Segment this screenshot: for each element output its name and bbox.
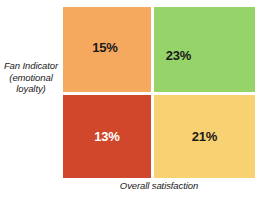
matrix-cell-top-right[interactable]: 23% Fans 28% — [154, 7, 255, 92]
matrix-cell-bottom-right[interactable]: 21% — [154, 95, 255, 178]
matrix-cell-top-right-value: 23% — [166, 48, 191, 63]
matrix-cell-top-left[interactable]: 15% — [63, 7, 151, 92]
matrix-cell-bottom-right-value: 21% — [192, 129, 217, 144]
fan-indicator-matrix-chart: Fan Indicator (emotional loyalty) 15% 23… — [0, 0, 257, 197]
y-axis-label-line-3: loyalty) — [0, 83, 62, 95]
x-axis-label: Overall satisfaction — [63, 180, 255, 192]
matrix-cell-top-left-value: 15% — [92, 40, 117, 55]
y-axis-label-line-2: (emotional — [0, 72, 62, 84]
matrix-cell-bottom-left-value: 13% — [94, 129, 119, 144]
y-axis-label-line-1: Fan Indicator — [0, 60, 62, 72]
y-axis-label: Fan Indicator (emotional loyalty) — [0, 60, 62, 95]
matrix-grid: 15% 23% Fans 28% 13% 21% — [63, 7, 255, 178]
matrix-cell-bottom-left[interactable]: 13% — [63, 95, 151, 178]
